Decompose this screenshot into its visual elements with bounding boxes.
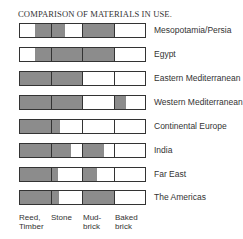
bar-segment	[83, 168, 115, 181]
segment-fill	[83, 191, 114, 204]
bar-segment	[83, 144, 115, 157]
bar-segment	[115, 144, 146, 157]
material-bar	[19, 95, 146, 110]
bar-segment	[115, 24, 146, 37]
material-bar	[19, 47, 146, 62]
chart-row: India	[19, 143, 243, 159]
bar-segment	[83, 96, 115, 109]
chart-row: The Americas	[19, 190, 243, 206]
chart-row: Egypt	[19, 47, 243, 63]
chart-row: Far East	[19, 167, 243, 183]
bar-segment	[20, 24, 52, 37]
bar-segment	[52, 144, 84, 157]
region-label: Eastern Mediterranean	[154, 73, 240, 83]
region-label: Western Mediterranean	[154, 97, 243, 107]
bar-segment	[83, 72, 115, 85]
chart-row: Mesopotamia/Persia	[19, 23, 243, 39]
segment-fill	[52, 24, 66, 37]
segment-fill	[52, 120, 61, 133]
bar-segment	[52, 120, 84, 133]
segment-fill	[83, 144, 104, 157]
bar-segment	[83, 48, 115, 61]
column-label-baked-brick: Bakedbrick	[115, 213, 138, 231]
bar-segment	[20, 168, 52, 181]
segment-fill	[20, 191, 51, 204]
segment-fill	[20, 96, 51, 109]
segment-fill	[20, 168, 51, 181]
material-bar	[19, 143, 146, 158]
segment-fill	[20, 144, 51, 157]
region-label: India	[154, 145, 172, 155]
column-labels: Reed,Timber Stone Mud-brick Bakedbrick	[19, 213, 159, 237]
region-label: Far East	[154, 169, 186, 179]
bar-segment	[20, 191, 52, 204]
column-label-mud-brick: Mud-brick	[83, 213, 101, 231]
region-label: Egypt	[154, 49, 176, 59]
bar-segment	[115, 191, 146, 204]
column-label-stone: Stone	[51, 213, 72, 222]
bar-segment	[52, 168, 84, 181]
bar-segment	[20, 48, 52, 61]
bar-segment	[83, 191, 115, 204]
segment-fill	[52, 48, 83, 61]
bar-segment	[52, 24, 84, 37]
segment-fill	[20, 120, 51, 133]
region-label: Mesopotamia/Persia	[154, 25, 231, 35]
segment-fill	[52, 144, 72, 157]
bar-segment	[20, 120, 52, 133]
segment-fill	[115, 96, 126, 109]
material-bar	[19, 167, 146, 182]
bar-segment	[83, 120, 115, 133]
material-bar	[19, 71, 146, 86]
region-label: The Americas	[154, 192, 206, 202]
segment-fill	[52, 191, 60, 204]
bar-segment	[115, 96, 146, 109]
material-bar	[19, 190, 146, 205]
bar-segment	[52, 48, 84, 61]
segment-fill	[35, 48, 50, 61]
bar-segment	[20, 96, 52, 109]
column-label-reed-timber: Reed,Timber	[19, 213, 44, 231]
chart-row: Western Mediterranean	[19, 95, 243, 111]
bar-segment	[115, 120, 146, 133]
chart-row: Eastern Mediterranean	[19, 71, 243, 87]
bar-segment	[52, 96, 84, 109]
segment-fill	[35, 24, 50, 37]
bar-segment	[20, 144, 52, 157]
segment-fill	[52, 72, 83, 85]
bar-segment	[115, 72, 146, 85]
material-bar	[19, 119, 146, 134]
segment-fill	[52, 96, 83, 109]
region-label: Continental Europe	[154, 121, 227, 131]
bar-segment	[20, 72, 52, 85]
segment-fill	[83, 48, 114, 61]
chart-row: Continental Europe	[19, 119, 243, 135]
material-bar	[19, 23, 146, 38]
segment-fill	[83, 168, 97, 181]
bar-segment	[83, 24, 115, 37]
bar-segment	[52, 72, 84, 85]
segment-fill	[20, 72, 51, 85]
segment-fill	[83, 24, 114, 37]
segment-fill	[52, 168, 59, 181]
bar-segment	[52, 191, 84, 204]
bar-segment	[115, 168, 146, 181]
chart-title: COMPARISON OF MATERIALS IN USE.	[18, 9, 172, 19]
bar-segment	[115, 48, 146, 61]
